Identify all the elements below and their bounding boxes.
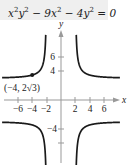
x-tick-label: 2 [73, 104, 78, 114]
curve-upper-left [2, 35, 46, 78]
annotated-point [30, 73, 34, 77]
curve-upper-right [76, 35, 120, 78]
point-label: (−4, 2√3) [4, 83, 40, 94]
x-tick-label: −2 [41, 104, 51, 114]
curve-lower-left [2, 122, 46, 165]
y-tick-label: −4 [47, 124, 57, 134]
y-axis-label: y [58, 19, 64, 29]
x-axis-arrow-icon [113, 98, 120, 103]
x-axis-label: x [121, 95, 127, 105]
y-tick-label: 4 [50, 66, 55, 76]
y-tick-label: 6 [50, 52, 55, 62]
y-axis-arrow-icon [59, 30, 64, 37]
x-tick-label: −4 [27, 104, 37, 114]
x-tick-label: 4 [88, 104, 93, 114]
graph-plot: −6 −4 −2 2 4 6 6 4 −4 y x (−4, 2√3) [0, 0, 137, 165]
curve-lower-right [76, 122, 120, 165]
x-tick-label: 6 [102, 104, 107, 114]
x-tick-label: −6 [13, 104, 23, 114]
